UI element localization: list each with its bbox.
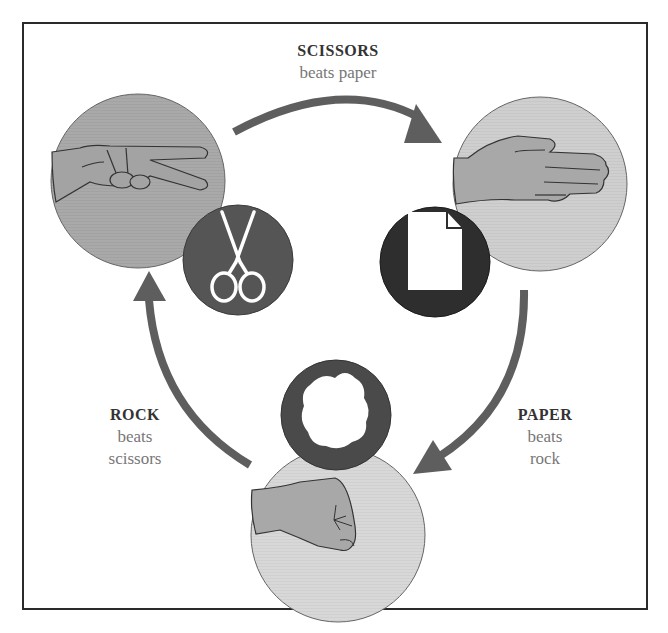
edge-label-scissors: SCISSORS beats paper [268,40,408,84]
rock-symbol-circle [281,360,391,470]
scissors-symbol-circle [183,205,293,315]
edge-subtitle-rock-line1: beats [90,426,180,448]
edge-title-rock: ROCK [90,404,180,426]
cycle-diagram [0,0,668,633]
rock-ring-icon [302,373,369,448]
edge-title-paper: PAPER [500,404,590,426]
edge-label-paper: PAPER beats rock [500,404,590,470]
edge-subtitle-rock-line2: scissors [90,448,180,470]
edge-subtitle-paper-line2: rock [500,448,590,470]
arrow-scissors-to-paper [234,100,442,143]
edge-label-rock: ROCK beats scissors [90,404,180,470]
document-icon [408,212,462,290]
rock-hand-circle [251,448,425,622]
paper-symbol-circle [380,207,490,317]
edge-subtitle-scissors: beats paper [268,62,408,84]
edge-title-scissors: SCISSORS [268,40,408,62]
edge-subtitle-paper-line1: beats [500,426,590,448]
